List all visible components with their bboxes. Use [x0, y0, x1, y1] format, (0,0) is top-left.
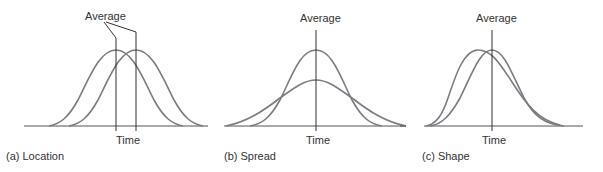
caption-spread: (b) Spread: [224, 150, 276, 162]
caption-shape: (c) Shape: [422, 150, 470, 162]
time-label: Time: [306, 134, 330, 146]
caption-location: (a) Location: [6, 150, 64, 162]
average-label: Average: [476, 12, 517, 24]
average-label: Average: [85, 10, 126, 22]
distribution-figure: Average Time (a) Location Average Time (…: [0, 0, 603, 172]
average-label: Average: [300, 12, 341, 24]
time-label: Time: [482, 134, 506, 146]
panel-shape: Average Time (c) Shape: [400, 12, 583, 162]
time-label: Time: [116, 134, 140, 146]
panel-spread: Average Time (b) Spread: [224, 12, 406, 162]
panel-location: Average Time (a) Location: [6, 10, 208, 162]
curve-skewed: [426, 50, 560, 126]
